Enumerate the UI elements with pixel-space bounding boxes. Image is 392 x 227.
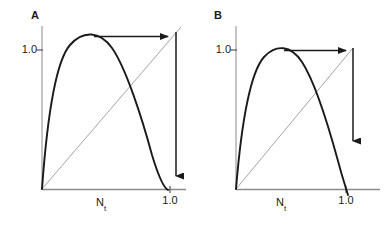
- figure-container: A 1.0 1.0 Nt: [0, 0, 392, 227]
- panel-a-plot: [0, 0, 196, 227]
- panel-b: B 1.0 1.0 Nt: [196, 0, 392, 227]
- panel-b-one-to-one-line: [236, 48, 353, 189]
- panel-a-one-to-one-line: [42, 27, 181, 189]
- panel-a: A 1.0 1.0 Nt: [0, 0, 196, 227]
- panel-b-plot: [196, 0, 392, 227]
